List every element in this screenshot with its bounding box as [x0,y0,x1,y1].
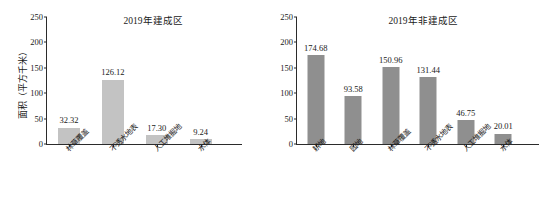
y-axis-tick-label: 0 [23,140,43,149]
bar-value-label: 93.58 [344,85,363,94]
bar-value-label: 131.44 [417,66,440,75]
y-axis-tick-label: 50 [273,114,293,123]
bar [307,55,324,144]
bar-value-label: 46.75 [456,109,475,118]
dual-bar-chart-figure: 面积（平方千米） 2019年建成区 050100150200250 32.32林… [0,0,553,205]
bar-group: 46.75人工堆掘地 [447,17,485,144]
bar-value-label: 126.12 [101,68,124,77]
y-axis-tick-label: 150 [23,64,43,73]
bar-value-label: 20.01 [494,122,513,131]
bar-series: 174.68耕地93.58园地150.96林草覆盖131.44不透水地表46.7… [297,17,539,144]
bar-group: 32.32林草覆盖 [47,17,91,144]
y-axis-tick-label: 100 [23,89,43,98]
bar-value-label: 32.32 [59,116,78,125]
bar [345,96,362,144]
chart-panel-built-up-area: 面积（平方千米） 2019年建成区 050100150200250 32.32林… [0,0,268,205]
chart-panel-non-built-up-area: 2019年非建成区 050100150200250 174.68耕地93.58园… [268,0,553,205]
y-axis-tick-label: 0 [273,140,293,149]
plot-area: 050100150200250 32.32林草覆盖126.12不透水地表17.3… [46,17,242,145]
y-axis-tick-label: 150 [273,64,293,73]
bar-value-label: 174.68 [304,44,327,53]
bar-group: 150.96林草覆盖 [372,17,410,144]
y-axis-tick-label: 50 [23,114,43,123]
bar-series: 32.32林草覆盖126.12不透水地表17.30人工堆掘地9.24水体 [47,17,242,144]
bar-group: 93.58园地 [335,17,373,144]
bar-value-label: 9.24 [193,128,208,137]
bar-group: 17.30人工堆掘地 [135,17,179,144]
bar-group: 20.01水体 [485,17,523,144]
bar-group: 174.68耕地 [297,17,335,144]
bar-value-label: 150.96 [379,56,402,65]
y-axis-tick-label: 200 [23,38,43,47]
bar [420,77,437,144]
y-axis-tick-label: 100 [273,89,293,98]
plot-area: 050100150200250 174.68耕地93.58园地150.96林草覆… [296,17,539,145]
y-axis-tick-label: 250 [273,13,293,22]
bar [382,67,399,144]
bar-group: 126.12不透水地表 [91,17,135,144]
y-axis-tick-label: 250 [23,13,43,22]
y-axis-title: 面积（平方千米） [16,8,32,158]
y-axis-tick-label: 200 [273,38,293,47]
bar-group: 9.24水体 [179,17,223,144]
bar-value-label: 17.30 [147,124,166,133]
bar-group: 131.44不透水地表 [410,17,448,144]
